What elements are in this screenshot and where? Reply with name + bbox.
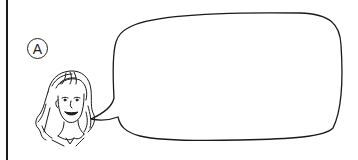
girl-portrait xyxy=(36,71,95,146)
speech-bubble xyxy=(91,13,342,141)
illustration-canvas xyxy=(0,0,358,160)
